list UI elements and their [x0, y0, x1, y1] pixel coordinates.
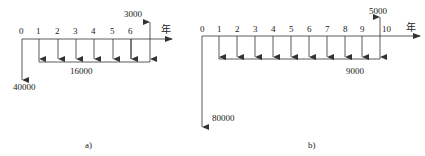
- annual-outflow-label: 16000: [70, 66, 93, 76]
- axis-unit-label: 年: [161, 23, 171, 35]
- final-inflow-label: 5000: [369, 6, 388, 16]
- period-label: 6: [307, 24, 312, 34]
- period-label: 4: [271, 24, 276, 34]
- period-label: 9: [360, 24, 365, 34]
- period-label: 1: [36, 26, 41, 36]
- period-label: 3: [253, 24, 258, 34]
- period-label: 3: [73, 26, 78, 36]
- axis-unit-label: 年: [406, 21, 416, 33]
- diagram-b: 年 0 1 2 3 4 5 6 7 8 9 10 80000: [200, 6, 420, 150]
- period-label: 2: [235, 24, 240, 34]
- period-label: 2: [55, 26, 60, 36]
- annual-outflow-label: 9000: [346, 66, 365, 76]
- caption-a: a): [85, 140, 92, 150]
- annual-outflow-arrows: [39, 39, 150, 62]
- initial-outflow-label: 80000: [212, 113, 235, 123]
- period-label: 6: [128, 26, 133, 36]
- annual-outflow-arrows: [219, 36, 380, 59]
- period-label: 0: [200, 24, 205, 34]
- period-label: 10: [382, 24, 392, 34]
- period-label: 8: [343, 24, 348, 34]
- period-label: 0: [19, 26, 24, 36]
- cash-flow-diagrams: 年 0 1 2 3 4 5 6 40000 16000 3000 a): [0, 0, 425, 156]
- period-label: 4: [91, 26, 96, 36]
- period-label: 5: [289, 24, 294, 34]
- period-label: 1: [217, 24, 222, 34]
- diagram-a: 年 0 1 2 3 4 5 6 40000 16000 3000 a): [13, 9, 172, 150]
- final-inflow-label: 3000: [124, 9, 143, 19]
- period-label: 5: [110, 26, 115, 36]
- caption-b: b): [308, 140, 316, 150]
- initial-outflow-label: 40000: [13, 82, 36, 92]
- period-label: 7: [325, 24, 330, 34]
